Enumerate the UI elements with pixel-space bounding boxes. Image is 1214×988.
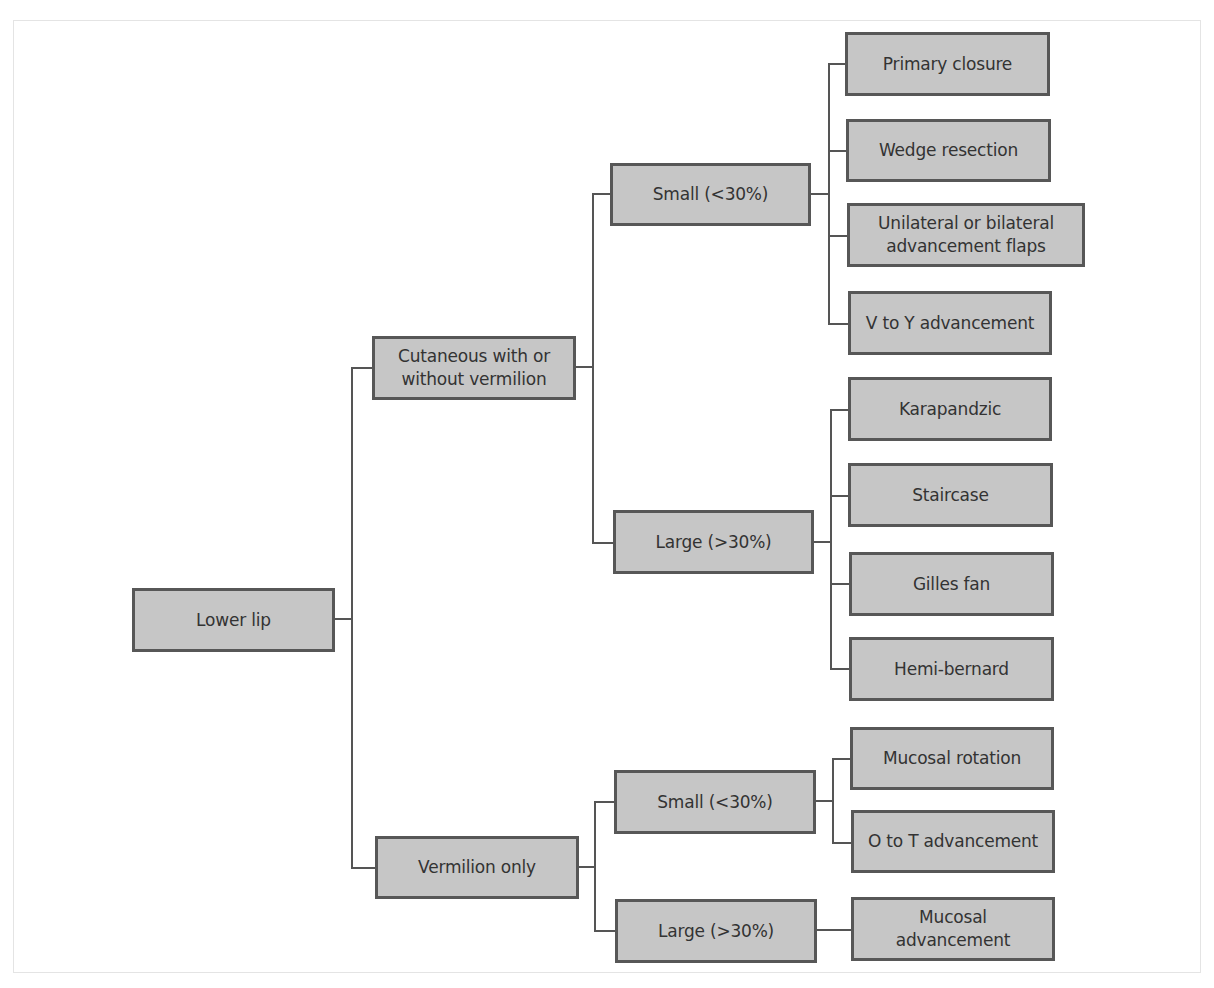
connector [811,193,829,195]
node-lower-lip: Lower lip [132,588,335,652]
connector [351,867,375,869]
node-cutaneous: Cutaneous with or without vermilion [372,336,576,400]
connector [830,409,832,670]
node-karapandzic: Karapandzic [848,377,1052,441]
node-gilles-fan: Gilles fan [849,552,1054,616]
connector [832,758,850,760]
node-vermilion-only: Vermilion only [375,836,579,899]
connector [828,63,845,65]
connector [830,409,848,411]
connector [830,668,849,670]
node-primary-closure: Primary closure [845,32,1050,96]
connector [594,930,615,932]
connector [817,929,851,931]
node-hemi-bernard: Hemi-bernard [849,637,1054,701]
connector [351,367,353,869]
node-wedge-resection: Wedge resection [846,119,1051,182]
node-vermilion-small: Small (<30%) [614,770,816,834]
node-staircase: Staircase [848,463,1053,527]
connector [832,842,851,844]
connector [592,542,613,544]
node-cutaneous-large: Large (>30%) [613,510,814,574]
node-vermilion-large: Large (>30%) [615,899,817,963]
node-advancement-flaps: Unilateral or bilateral advancement flap… [847,203,1085,267]
connector [828,323,848,325]
connector [814,541,831,543]
connector [594,801,614,803]
node-mucosal-advancement: Mucosal advancement [851,897,1055,961]
connector [828,235,847,237]
node-mucosal-rotation: Mucosal rotation [850,727,1054,790]
connector [830,583,849,585]
connector [592,193,594,544]
node-cutaneous-small: Small (<30%) [610,163,811,226]
connector [351,367,372,369]
connector [832,758,834,844]
connector [594,801,596,932]
connector [830,495,848,497]
node-o-to-t-advancement: O to T advancement [851,810,1055,873]
node-v-to-y-advancement: V to Y advancement [848,291,1052,355]
connector [828,150,846,152]
connector [592,193,610,195]
connector [828,63,830,325]
